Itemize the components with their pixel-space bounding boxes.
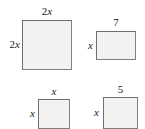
label-small-square-left: x	[22, 108, 35, 119]
rectangle-small-square	[38, 99, 70, 129]
variable: x	[15, 38, 20, 50]
variable: x	[30, 107, 35, 119]
rectangle-wide	[96, 31, 136, 60]
variable: x	[88, 39, 93, 51]
geometry-figure: 2x 2x 7 x x x 5 x	[0, 0, 145, 129]
label-five-square-left: x	[86, 107, 99, 118]
variable: x	[94, 106, 99, 118]
label-large-square-top: 2x	[22, 6, 72, 17]
variable: x	[47, 5, 52, 17]
rectangle-large-square	[22, 20, 72, 70]
label-wide-rectangle-top: 7	[96, 17, 136, 28]
label-large-square-left: 2x	[0, 39, 20, 50]
label-five-square-top: 5	[103, 84, 138, 95]
label-small-square-top: x	[38, 86, 70, 97]
rectangle-five-square	[103, 97, 138, 129]
variable: x	[52, 85, 57, 97]
label-wide-rectangle-left: x	[79, 40, 93, 51]
